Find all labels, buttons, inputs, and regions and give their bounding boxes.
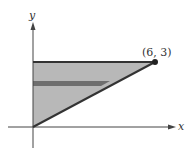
diagram: (6, 3) x y [0,0,189,155]
y-axis-arrow-icon [31,22,36,30]
y-axis-label: y [28,9,36,22]
x-axis-label: x [178,120,185,133]
point-marker-icon [152,59,158,65]
point-label: (6, 3) [142,46,172,59]
representative-strip [33,81,110,86]
x-axis-arrow-icon [168,125,176,130]
